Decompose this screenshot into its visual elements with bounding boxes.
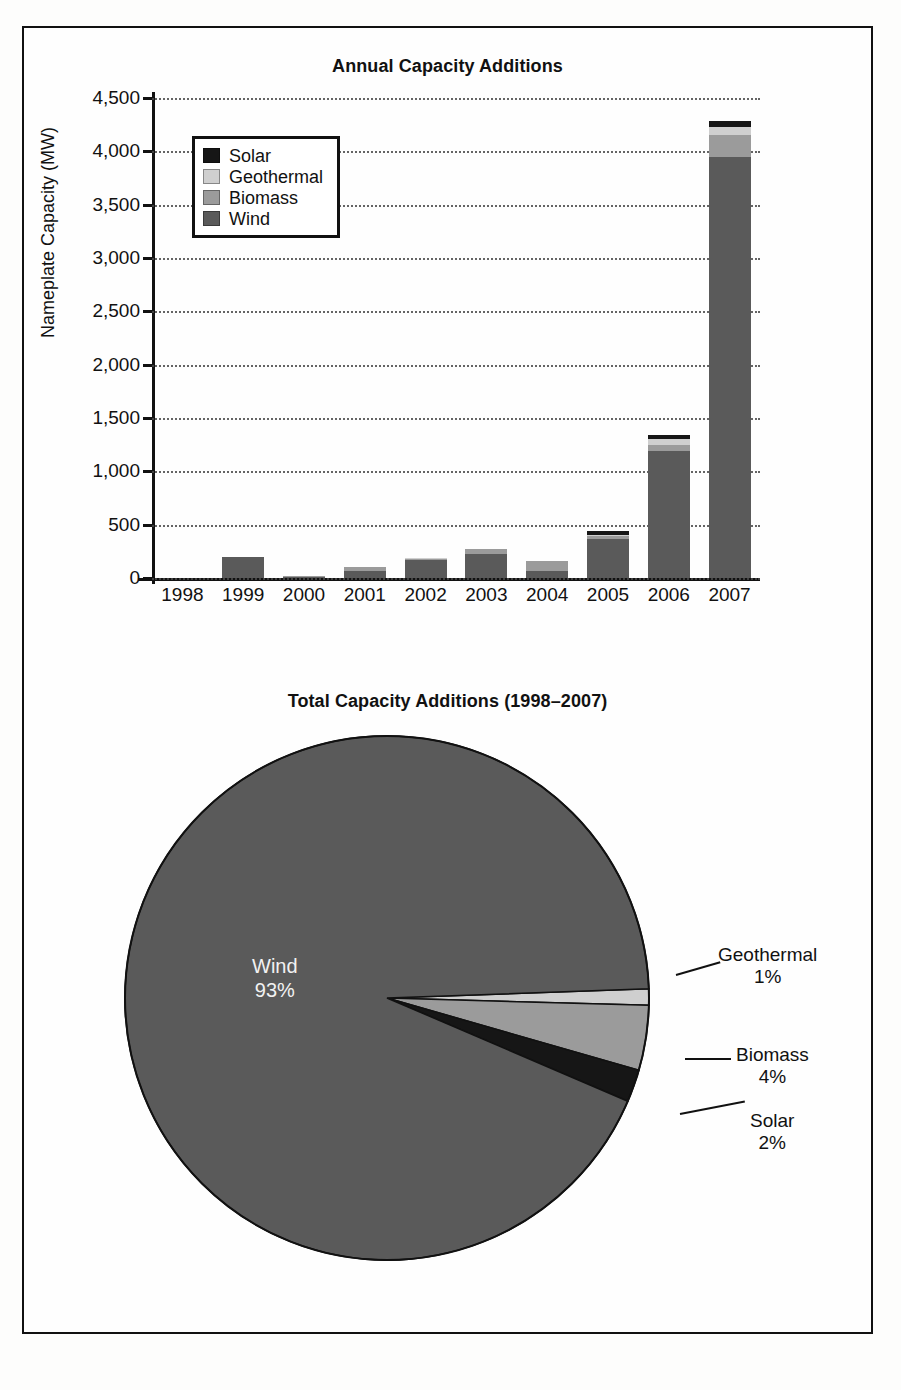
y-tick-mark — [143, 524, 152, 527]
y-tick-label: 4,000 — [92, 140, 140, 162]
y-tick-label: 4,500 — [92, 87, 140, 109]
bar-column-2006 — [638, 98, 699, 578]
bar-chart-legend: SolarGeothermalBiomassWind — [192, 136, 340, 238]
bar-segment-wind-2003 — [465, 554, 507, 578]
y-tick-label: 3,000 — [92, 247, 140, 269]
bar-stack — [405, 558, 447, 578]
x-tick-label-2001: 2001 — [334, 584, 395, 606]
bar-segment-wind-2005 — [587, 539, 629, 578]
y-tick-label: 500 — [108, 514, 140, 536]
bar-stack — [222, 557, 264, 578]
x-tick-label-2002: 2002 — [395, 584, 456, 606]
pie-callout-biomass: Biomass 4% — [736, 1044, 809, 1089]
figure-page: Annual Capacity Additions 05001,0001,500… — [0, 0, 901, 1390]
x-tick-label-1998: 1998 — [152, 584, 213, 606]
y-tick-mark — [143, 204, 152, 207]
legend-label: Geothermal — [229, 168, 323, 186]
y-tick-mark — [143, 470, 152, 473]
bar-stack — [344, 567, 386, 578]
legend-item-solar: Solar — [203, 145, 323, 166]
pie-callout-geothermal-label: Geothermal — [718, 944, 817, 966]
x-tick-label-2006: 2006 — [638, 584, 699, 606]
y-tick-label: 3,500 — [92, 194, 140, 216]
pie-slice-label-wind: Wind 93% — [252, 954, 298, 1002]
bar-segment-wind-2000 — [283, 577, 325, 578]
bar-segment-biomass-2007 — [709, 135, 751, 156]
pie-callout-geothermal: Geothermal 1% — [718, 944, 817, 989]
x-tick-label-2004: 2004 — [517, 584, 578, 606]
bar-chart-title: Annual Capacity Additions — [24, 56, 871, 77]
y-tick-mark — [143, 417, 152, 420]
bar-column-2001 — [334, 98, 395, 578]
y-tick-mark — [143, 257, 152, 260]
bar-stack — [465, 549, 507, 578]
y-tick-mark — [143, 150, 152, 153]
pie-plot-area — [122, 733, 652, 1263]
pie-callout-geothermal-value: 1% — [718, 966, 817, 988]
pie-chart: Total Capacity Additions (1998–2007) — [24, 673, 871, 1333]
pie-chart-title: Total Capacity Additions (1998–2007) — [24, 691, 871, 712]
bar-segment-wind-2007 — [709, 157, 751, 578]
bar-column-2007 — [699, 98, 760, 578]
bar-segment-wind-1999 — [222, 557, 264, 578]
legend-swatch-wind-icon — [203, 211, 220, 226]
y-tick-label: 1,000 — [92, 460, 140, 482]
gridline — [152, 578, 760, 580]
bar-chart: Annual Capacity Additions 05001,0001,500… — [24, 28, 871, 668]
y-tick-mark — [143, 577, 152, 580]
bar-segment-geothermal-2007 — [709, 127, 751, 136]
x-tick-label-1999: 1999 — [213, 584, 274, 606]
pie-callout-biomass-value: 4% — [736, 1066, 809, 1088]
x-axis-labels: 1998199920002001200220032004200520062007 — [152, 584, 760, 606]
bar-segment-wind-2004 — [526, 571, 568, 578]
bar-segment-biomass-2004 — [526, 561, 568, 571]
bar-column-2004 — [517, 98, 578, 578]
legend-label: Wind — [229, 210, 270, 228]
bar-segment-wind-2002 — [405, 560, 447, 578]
pie-callout-solar: Solar 2% — [750, 1110, 794, 1155]
y-tick-label: 0 — [129, 567, 140, 589]
leader-line-biomass — [685, 1058, 731, 1060]
pie-slice-label-wind-value: 93% — [252, 978, 298, 1002]
y-tick-label: 1,500 — [92, 407, 140, 429]
bar-segment-wind-2006 — [648, 451, 690, 578]
bar-stack — [283, 576, 325, 578]
bar-column-2003 — [456, 98, 517, 578]
bar-stack — [526, 561, 568, 578]
legend-swatch-biomass-icon — [203, 190, 220, 205]
legend-item-biomass: Biomass — [203, 187, 323, 208]
bar-stack — [587, 531, 629, 578]
legend-item-geothermal: Geothermal — [203, 166, 323, 187]
bar-column-2002 — [395, 98, 456, 578]
y-tick-mark — [143, 364, 152, 367]
bar-stack — [709, 121, 751, 578]
bar-stack — [648, 435, 690, 578]
x-tick-label-2007: 2007 — [699, 584, 760, 606]
pie-callout-solar-value: 2% — [750, 1132, 794, 1154]
legend-label: Solar — [229, 147, 271, 165]
legend-label: Biomass — [229, 189, 298, 207]
legend-swatch-geothermal-icon — [203, 169, 220, 184]
pie-callout-biomass-label: Biomass — [736, 1044, 809, 1066]
x-tick-label-2003: 2003 — [456, 584, 517, 606]
x-tick-label-2005: 2005 — [578, 584, 639, 606]
figure-frame: Annual Capacity Additions 05001,0001,500… — [22, 26, 873, 1334]
y-tick-mark — [143, 310, 152, 313]
y-tick-mark — [143, 97, 152, 100]
bar-column-2005 — [578, 98, 639, 578]
y-tick-label: 2,000 — [92, 354, 140, 376]
pie-callout-solar-label: Solar — [750, 1110, 794, 1132]
pie-slice-label-wind-name: Wind — [252, 954, 298, 978]
bar-segment-wind-2001 — [344, 571, 386, 578]
y-tick-label: 2,500 — [92, 300, 140, 322]
pie-svg — [122, 733, 652, 1263]
legend-swatch-solar-icon — [203, 148, 220, 163]
y-axis-title: Nameplate Capacity (MW) — [38, 127, 59, 338]
legend-item-wind: Wind — [203, 208, 323, 229]
x-tick-label-2000: 2000 — [274, 584, 335, 606]
